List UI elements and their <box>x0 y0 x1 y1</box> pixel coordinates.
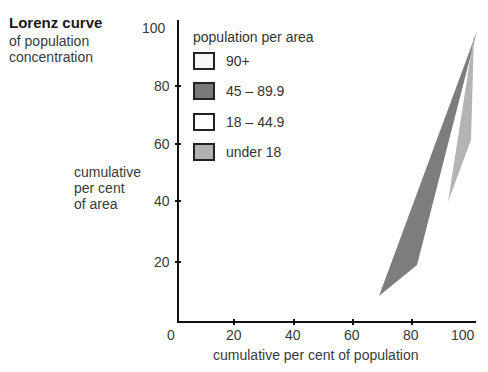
legend-label-45-89: 45 – 89.9 <box>226 83 284 99</box>
legend-swatch-18-44 <box>193 113 215 131</box>
legend-swatch-45-89 <box>193 82 215 100</box>
legend-label-18-44: 18 – 44.9 <box>226 114 284 130</box>
legend-title: population per area <box>193 29 314 45</box>
series-45-89-polygon <box>379 31 477 296</box>
legend-label-90plus: 90+ <box>226 53 250 69</box>
legend-label-under-18: under 18 <box>226 144 281 160</box>
legend-swatch-90plus <box>193 52 215 70</box>
legend-swatch-under-18 <box>193 143 215 161</box>
